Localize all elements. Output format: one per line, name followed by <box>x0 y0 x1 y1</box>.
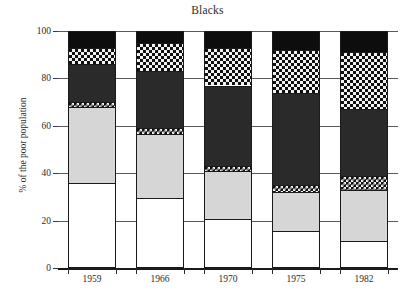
y-tick-mark-40 <box>53 173 58 174</box>
bar-segment-1959-segment-3-checker-thin[interactable] <box>69 102 115 107</box>
bar-segment-1970-segment-3-checker-thin[interactable] <box>205 166 251 171</box>
x-tick-mark-left-1970 <box>204 268 205 274</box>
bar-segment-1970-segment-2-light-gray[interactable] <box>205 171 251 220</box>
bar-segment-1970-segment-1-white[interactable] <box>205 219 251 268</box>
x-tick-mark-right-1975 <box>320 268 321 274</box>
y-tick-mark-80 <box>53 78 58 79</box>
bar-segment-1982-segment-1-white[interactable] <box>341 241 387 268</box>
bar-segment-1959-segment-1-white[interactable] <box>69 183 115 268</box>
bar-1959[interactable] <box>68 31 116 268</box>
y-tick-mark-100 <box>53 31 58 32</box>
x-tick-mark-left-1982 <box>340 268 341 274</box>
chart-container: Blacks % of the poor population 02040608… <box>0 0 415 303</box>
bar-1966[interactable] <box>136 31 184 268</box>
x-tick-label-1975: 1975 <box>287 274 306 284</box>
x-tick-label-1966: 1966 <box>151 274 170 284</box>
bar-segment-1966-segment-5-checker[interactable] <box>137 43 183 71</box>
y-tick-label-60: 60 <box>42 121 52 131</box>
y-tick-mark-60 <box>53 126 58 127</box>
x-tick-mark-left-1959 <box>68 268 69 274</box>
bar-segment-1959-segment-2-light-gray[interactable] <box>69 107 115 183</box>
x-tick-label-1982: 1982 <box>355 274 374 284</box>
y-tick-mark-20 <box>53 221 58 222</box>
bar-1982[interactable] <box>340 31 388 268</box>
x-tick-mark-right-1982 <box>388 268 389 274</box>
bar-segment-1966-segment-4-dark-gray[interactable] <box>137 71 183 128</box>
bar-segment-1966-segment-3-checker-thin[interactable] <box>137 128 183 134</box>
bar-segment-1975-segment-5-checker[interactable] <box>273 50 319 93</box>
bar-segment-1959-segment-4-dark-gray[interactable] <box>69 64 115 102</box>
bar-segment-1966-segment-1-white[interactable] <box>137 198 183 268</box>
bar-segment-1982-segment-3-checker-thin[interactable] <box>341 176 387 190</box>
y-tick-label-100: 100 <box>37 26 51 36</box>
bar-segment-1982-segment-4-dark-gray[interactable] <box>341 109 387 175</box>
x-tick-mark-right-1959 <box>116 268 117 274</box>
y-axis-label: % of the poor population <box>18 45 28 245</box>
bar-segment-1975-segment-6-black[interactable] <box>273 31 319 50</box>
x-tick-label-1970: 1970 <box>219 274 238 284</box>
bar-segment-1970-segment-6-black[interactable] <box>205 31 251 48</box>
plot-area: 020406080100 19591966197019751982 <box>58 31 398 268</box>
x-tick-mark-left-1966 <box>136 268 137 274</box>
bar-1975[interactable] <box>272 31 320 268</box>
y-tick-label-40: 40 <box>42 168 52 178</box>
x-tick-mark-left-1975 <box>272 268 273 274</box>
bar-segment-1982-segment-5-checker[interactable] <box>341 52 387 109</box>
x-tick-mark-right-1970 <box>252 268 253 274</box>
bar-segment-1975-segment-2-light-gray[interactable] <box>273 192 319 231</box>
gridline-0 <box>58 268 398 270</box>
bar-segment-1959-segment-5-checker[interactable] <box>69 48 115 65</box>
bar-segment-1982-segment-6-black[interactable] <box>341 31 387 52</box>
chart-title: Blacks <box>0 4 415 16</box>
bar-segment-1975-segment-1-white[interactable] <box>273 231 319 268</box>
y-tick-label-80: 80 <box>42 73 52 83</box>
bar-segment-1966-segment-2-light-gray[interactable] <box>137 134 183 198</box>
bar-segment-1970-segment-5-checker[interactable] <box>205 48 251 86</box>
bar-segment-1959-segment-6-black[interactable] <box>69 31 115 48</box>
bar-segment-1966-segment-6-black[interactable] <box>137 31 183 43</box>
bar-1970[interactable] <box>204 31 252 268</box>
bar-segment-1975-segment-3-checker-thin[interactable] <box>273 185 319 192</box>
x-tick-mark-right-1966 <box>184 268 185 274</box>
bar-segment-1970-segment-4-dark-gray[interactable] <box>205 86 251 167</box>
y-tick-label-20: 20 <box>42 216 52 226</box>
bar-segment-1975-segment-4-dark-gray[interactable] <box>273 93 319 185</box>
x-tick-label-1959: 1959 <box>83 274 102 284</box>
bar-segment-1982-segment-2-light-gray[interactable] <box>341 190 387 241</box>
y-tick-label-0: 0 <box>46 263 51 273</box>
y-tick-mark-0 <box>53 268 58 269</box>
